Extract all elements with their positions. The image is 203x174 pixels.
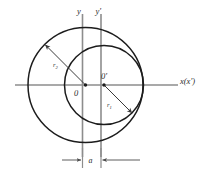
inner-radius-subscript: 1 <box>110 105 112 110</box>
y-axis-label: y <box>76 6 81 16</box>
origin-label-primary: 0 <box>74 88 79 98</box>
axes-group <box>15 14 178 157</box>
figure-container: y y' x(x') 0 0' r2 r1 a <box>0 0 203 174</box>
radius-annotations-group <box>45 45 132 113</box>
dimension-a-group <box>62 148 140 168</box>
inner-radius-label: r1 <box>107 101 112 110</box>
eccentric-circles-diagram: y y' x(x') 0 0' r2 r1 a <box>0 0 203 174</box>
outer-radius-label: r2 <box>53 61 59 70</box>
x-axis-label: x(x') <box>179 76 195 86</box>
origin-label-secondary: 0' <box>101 71 107 81</box>
origin-dot-secondary <box>102 83 105 86</box>
dimension-a-label: a <box>89 156 93 165</box>
origin-dot-primary <box>84 83 87 86</box>
outer-radius-subscript: 2 <box>56 65 59 70</box>
y-prime-axis-label: y' <box>95 6 102 16</box>
inner-radius-arrow <box>104 85 132 113</box>
